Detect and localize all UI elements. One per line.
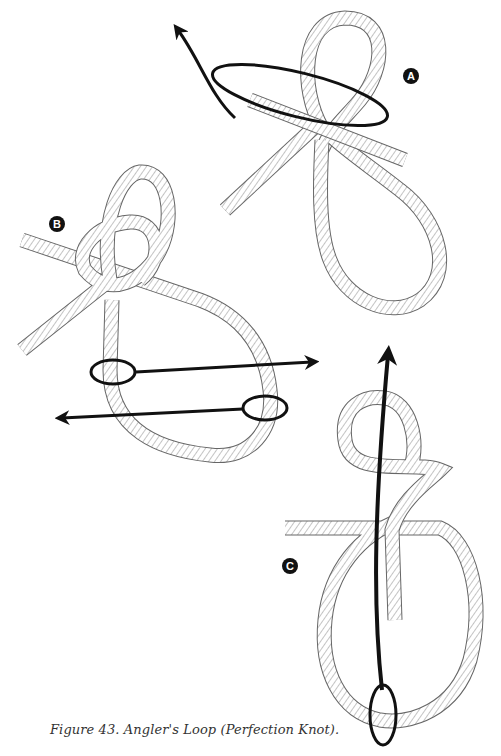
direction-arrow: [178, 30, 235, 118]
step-badge-b: B: [49, 216, 65, 232]
svg-text:B: B: [53, 218, 61, 230]
figure-caption: Figure 43. Angler's Loop (Perfection Kno…: [50, 722, 339, 737]
step-b-diagram: B: [22, 172, 312, 456]
svg-text:C: C: [286, 560, 294, 572]
step-a-diagram: A: [178, 18, 440, 308]
knot-diagram: A B C: [0, 0, 501, 756]
pull-right-arrow: [136, 362, 312, 372]
step-badge-a: A: [403, 68, 419, 84]
step-badge-c: C: [282, 558, 298, 574]
pull-left-arrow: [62, 409, 243, 418]
svg-text:A: A: [407, 70, 415, 82]
step-c-diagram: C: [282, 355, 476, 745]
